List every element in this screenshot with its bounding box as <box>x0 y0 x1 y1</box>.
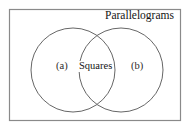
intersection-label: Squares <box>78 61 113 72</box>
left-set-label: (a) <box>56 61 68 72</box>
right-set-label: (b) <box>131 61 143 72</box>
venn-diagram-figure: Parallelograms (a) Squares (b) <box>0 0 191 131</box>
universal-set-label: Parallelograms <box>105 10 174 22</box>
